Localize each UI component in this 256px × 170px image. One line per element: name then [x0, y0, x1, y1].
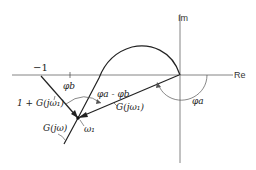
phi-diff-arc [66, 97, 101, 104]
closed-loop-vector-label: 1 + G(jω₁) [17, 98, 64, 108]
nyquist-curve-label: G(jω) [43, 123, 68, 133]
curve-label-leader [58, 134, 65, 140]
critical-point-label: −1 [33, 62, 48, 73]
phi-diff-arc-arrowhead [96, 99, 101, 104]
phi-diff-label: φa - φb [97, 89, 130, 99]
nyquist-diagram: Im Re −1 φb φa - φb φa 1 + G(jω₁) G(jω₁)… [0, 0, 256, 170]
real-axis-label: Re [234, 70, 246, 80]
phi-b-label: φb [63, 81, 75, 91]
frequency-point [76, 116, 80, 120]
phi-a-label: φa [192, 96, 204, 106]
imag-axis-label: Im [178, 13, 188, 23]
frequency-point-label: ω₁ [84, 124, 95, 134]
open-loop-vector-label: G(jω₁) [116, 102, 144, 112]
